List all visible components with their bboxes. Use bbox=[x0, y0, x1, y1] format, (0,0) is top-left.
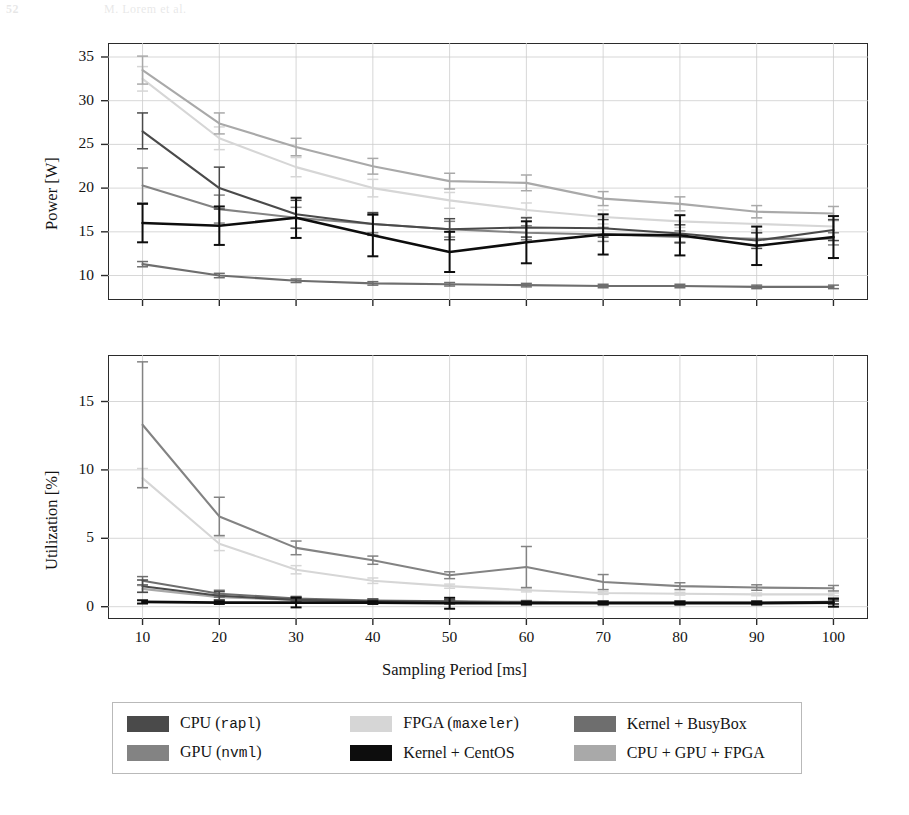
x-tick-100: 100 bbox=[808, 628, 858, 646]
legend-swatch-icon bbox=[350, 745, 392, 761]
x-axis-title: Sampling Period [ms] bbox=[0, 660, 909, 680]
running-head-text: M. Lorem et al. bbox=[104, 2, 186, 17]
legend-label-mono: nvml bbox=[221, 745, 256, 761]
series-kernel-busybox bbox=[137, 577, 839, 604]
legend-label-main: Kernel + BusyBox bbox=[627, 715, 747, 732]
series-fpga-maxeler bbox=[137, 469, 839, 596]
x-tick-60: 60 bbox=[501, 628, 551, 646]
legend-label-main: GPU ( bbox=[180, 743, 221, 760]
power-y-axis-title: Power [W] bbox=[42, 157, 62, 230]
legend-label: GPU (nvml) bbox=[180, 744, 261, 761]
x-tick-70: 70 bbox=[578, 628, 628, 646]
y-tick-30: 30 bbox=[50, 91, 94, 109]
legend-label-main: Kernel + CentOS bbox=[403, 744, 514, 761]
utilization-chart-panel bbox=[108, 355, 868, 619]
legend-item-fpga-maxeler[interactable]: FPGA (maxeler) bbox=[350, 715, 567, 732]
legend-label-tail: ) bbox=[255, 714, 260, 731]
series-cpu-rapl bbox=[137, 113, 839, 248]
legend: CPU (rapl)GPU (nvml)FPGA (maxeler)Kernel… bbox=[112, 702, 802, 774]
y-tick-0: 0 bbox=[50, 597, 94, 615]
x-tick-40: 40 bbox=[348, 628, 398, 646]
x-tick-90: 90 bbox=[732, 628, 782, 646]
figure-page: 52 M. Lorem et al. 101520253035 Power [W… bbox=[0, 0, 909, 815]
legend-swatch-icon bbox=[574, 745, 616, 761]
legend-label-main: CPU + GPU + FPGA bbox=[627, 744, 765, 761]
legend-swatch-icon bbox=[574, 716, 616, 732]
legend-label-tail: ) bbox=[256, 743, 261, 760]
x-tick-80: 80 bbox=[655, 628, 705, 646]
legend-item-kernel-centos[interactable]: Kernel + CentOS bbox=[350, 745, 567, 761]
running-head-page-number: 52 bbox=[6, 2, 19, 17]
power-plot-area bbox=[108, 43, 868, 300]
series-kernel-centos bbox=[137, 598, 839, 609]
series-gpu-nvml bbox=[137, 362, 839, 591]
legend-label-mono: maxeler bbox=[453, 716, 514, 732]
x-tick-50: 50 bbox=[425, 628, 475, 646]
x-tick-10: 10 bbox=[118, 628, 168, 646]
utilization-plot-area bbox=[108, 355, 868, 619]
utilization-y-axis-title: Utilization [%] bbox=[42, 471, 62, 570]
legend-item-gpu-nvml[interactable]: GPU (nvml) bbox=[127, 744, 344, 761]
legend-item-kernel-busybox[interactable]: Kernel + BusyBox bbox=[574, 716, 791, 732]
y-tick-15: 15 bbox=[50, 392, 94, 410]
y-tick-25: 25 bbox=[50, 134, 94, 152]
legend-label-main: CPU ( bbox=[180, 714, 220, 731]
legend-swatch-icon bbox=[350, 716, 392, 732]
y-tick-35: 35 bbox=[50, 47, 94, 65]
x-tick-30: 30 bbox=[271, 628, 321, 646]
legend-swatch-icon bbox=[127, 745, 169, 761]
legend-label: CPU (rapl) bbox=[180, 715, 261, 732]
legend-swatch-icon bbox=[127, 716, 169, 732]
series-fpga-maxeler bbox=[137, 67, 839, 233]
legend-label: Kernel + BusyBox bbox=[627, 716, 747, 732]
series-gpu-nvml bbox=[137, 168, 839, 245]
legend-label-main: FPGA ( bbox=[403, 714, 452, 731]
legend-label: FPGA (maxeler) bbox=[403, 715, 519, 732]
legend-label-tail: ) bbox=[514, 714, 519, 731]
legend-item-cpu-gpu-fpga[interactable]: CPU + GPU + FPGA bbox=[574, 745, 791, 761]
y-tick-10: 10 bbox=[50, 266, 94, 284]
series-kernel-busybox bbox=[137, 262, 839, 289]
legend-item-cpu-rapl[interactable]: CPU (rapl) bbox=[127, 715, 344, 732]
legend-label-mono: rapl bbox=[220, 716, 255, 732]
legend-label: CPU + GPU + FPGA bbox=[627, 745, 765, 761]
x-tick-20: 20 bbox=[194, 628, 244, 646]
running-head: 52 M. Lorem et al. bbox=[0, 2, 909, 18]
power-chart-panel bbox=[108, 43, 868, 300]
legend-label: Kernel + CentOS bbox=[403, 745, 514, 761]
